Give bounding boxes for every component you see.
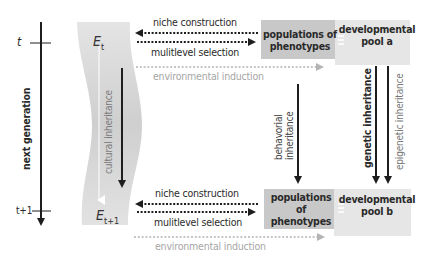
behavioral-inheritance-label: behavorialinheritance: [273, 111, 295, 160]
environmental-induction-label-top: environmental induction: [153, 70, 264, 82]
t1-label: t+1: [16, 205, 32, 216]
t-label: t: [17, 35, 21, 49]
next-generation-label: next generation: [20, 88, 32, 170]
multilevel-selection-label-bottom: mulitlevel selection: [154, 216, 242, 228]
environmental-induction-label-bottom: environmental induction: [155, 240, 266, 252]
niche-construction-label-top: niche construction: [153, 16, 237, 28]
genetic-inheritance-label: genetic inheritance: [361, 68, 373, 168]
env-t-label: Et: [93, 33, 104, 52]
epigenetic-inheritance-label: epigenetic inheritance: [394, 73, 405, 170]
phenotypes-box-top-label: populations ofphenotypes: [261, 20, 339, 59]
niche-construction-label-bottom: niche construction: [155, 187, 239, 199]
pool-a-label: developmentalpool a: [342, 20, 412, 50]
phenotypes-box-bottom-label: populations ofphenotypes: [264, 189, 338, 229]
multilevel-selection-label-top: mulitlevel selection: [151, 46, 239, 58]
env-t1-label: Et+1: [96, 207, 119, 226]
cultural-inheritance-label: cultural inheritance: [103, 90, 114, 174]
pool-b-label: developmentalpool b: [342, 189, 412, 221]
